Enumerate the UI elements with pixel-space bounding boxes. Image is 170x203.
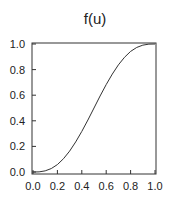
x-tick-label: 0.2	[50, 180, 65, 192]
y-tick-label: 0.8	[10, 64, 25, 76]
x-axis: 0.00.20.40.60.81.0	[25, 170, 162, 192]
y-tick-label: 0.6	[10, 89, 25, 101]
x-tick-label: 0.6	[99, 180, 114, 192]
y-tick-label: 1.0	[10, 38, 25, 50]
x-tick-label: 0.0	[25, 180, 40, 192]
y-tick-label: 0.2	[10, 140, 25, 152]
chart-title: f(u)	[84, 10, 107, 27]
line-chart: f(u) 0.00.20.40.60.81.0 0.00.20.40.60.81…	[0, 0, 170, 203]
x-tick-label: 0.4	[74, 180, 89, 192]
y-tick-label: 0.4	[10, 115, 25, 127]
data-line	[33, 44, 155, 172]
y-tick-label: 0.0	[10, 166, 25, 178]
x-tick-label: 1.0	[147, 180, 162, 192]
chart-container: f(u) 0.00.20.40.60.81.0 0.00.20.40.60.81…	[0, 0, 170, 203]
x-tick-label: 0.8	[123, 180, 138, 192]
